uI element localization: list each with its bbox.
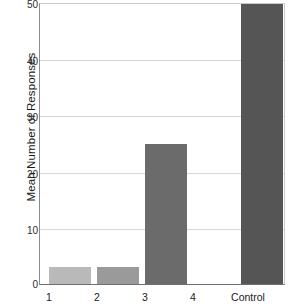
x-tick-label-1: 1 [28,291,70,303]
y-tick-label-20: 20 [0,170,38,180]
bar-slot-2 [97,4,139,284]
bars-layer [40,4,284,284]
bar-slot-4 [193,4,235,284]
x-tick-label-4: 4 [172,291,214,303]
y-tick-label-50: 50 [0,0,38,10]
bar-chart: Mean Number of Responses 50 40 30 20 10 … [0,0,290,306]
y-tick-label-0: 0 [0,280,38,290]
y-tick-label-40: 40 [0,57,38,67]
plot-area [39,3,285,285]
bar-slot-control [241,4,283,284]
bar-control[interactable] [241,4,283,284]
x-tick-label-3: 3 [124,291,166,303]
x-tick-label-control: Control [212,291,284,303]
bar-1[interactable] [49,267,91,284]
y-tick-label-30: 30 [0,113,38,123]
bar-slot-3 [145,4,187,284]
x-tick-label-2: 2 [76,291,118,303]
bar-2[interactable] [97,267,139,284]
bar-slot-1 [49,4,91,284]
y-tick-label-10: 10 [0,226,38,236]
bar-3[interactable] [145,144,187,284]
